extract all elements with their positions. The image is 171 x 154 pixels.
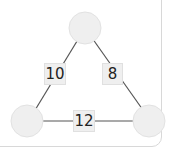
edge-label-left: 10 <box>44 63 66 85</box>
edge-label-right: 8 <box>102 63 123 85</box>
node-top[interactable] <box>69 12 101 44</box>
node-bottom-left[interactable] <box>11 105 43 137</box>
edge-label-bottom: 12 <box>73 110 95 132</box>
node-bottom-right[interactable] <box>133 105 165 137</box>
